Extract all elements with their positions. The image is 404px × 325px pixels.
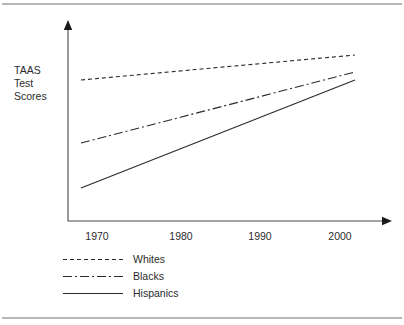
y-axis-label: TAASTestScores xyxy=(14,64,47,102)
legend-label-hispanics: Hispanics xyxy=(133,287,179,299)
x-axis-tick-1970: 1970 xyxy=(85,230,109,242)
chart-series-group xyxy=(81,55,355,188)
y-axis-label-line: Scores xyxy=(14,90,47,102)
axis-lines xyxy=(68,26,384,221)
x-axis-tick-1980: 1980 xyxy=(169,230,193,242)
chart-svg: TAASTestScores 1970198019902000 WhitesBl… xyxy=(0,0,404,325)
x-axis-arrowhead xyxy=(382,217,392,225)
series-line-whites xyxy=(81,55,355,80)
legend-label-blacks: Blacks xyxy=(133,270,164,282)
chart-legend: WhitesBlacksHispanics xyxy=(63,253,179,299)
y-axis-arrowhead xyxy=(64,20,72,30)
x-axis-tick-labels: 1970198019902000 xyxy=(85,230,352,242)
y-axis-label-line: Test xyxy=(14,77,33,89)
legend-label-whites: Whites xyxy=(133,253,165,265)
x-axis-tick-1990: 1990 xyxy=(248,230,272,242)
y-axis-label-line: TAAS xyxy=(14,64,41,76)
series-line-blacks xyxy=(81,72,355,143)
chart-figure: TAASTestScores 1970198019902000 WhitesBl… xyxy=(0,0,404,325)
series-line-hispanics xyxy=(81,80,355,188)
chart-axes xyxy=(64,20,392,225)
x-axis-tick-2000: 2000 xyxy=(328,230,352,242)
